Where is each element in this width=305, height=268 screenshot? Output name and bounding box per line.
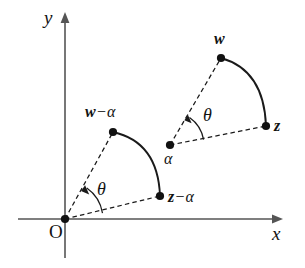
dot-w [217,54,225,62]
arc-w-to-z [221,58,266,126]
connecting-arcs-group [113,58,266,196]
label-z: z [274,118,280,134]
dot-z [262,122,270,130]
vertex-dots-group [61,54,270,223]
y-axis-label: y [44,8,52,27]
angle-arrow-origin [81,185,89,194]
label-w-minus-alpha-base: w [85,103,96,120]
angle-theta-alpha-group [184,115,203,140]
diagram-canvas [0,0,305,268]
label-z-minus-alpha: z−α [168,189,194,205]
ray-alpha-to-z [170,126,266,145]
x-axis-label: x [272,224,280,243]
angle-arrow-alpha [184,115,191,123]
label-z-minus-alpha-operator: − [174,188,185,205]
label-w-base: w [214,30,225,47]
label-z-minus-alpha-greek: α [185,188,193,205]
ray-origin-to-w-minus-alpha [65,132,113,219]
ray-alpha-to-w [170,58,221,145]
dot-w-minus-alpha [109,128,117,136]
label-z-base: z [274,117,280,134]
label-w-minus-alpha-greek: α [107,103,115,120]
arc-w-minus-alpha-to-z-minus-alpha [113,132,160,196]
angle-arc-alpha [190,117,204,139]
label-w-minus-alpha: w−α [85,104,115,120]
rotation-diagram-figure: y x O θ θ w−α z−α w z α [0,0,305,268]
label-w: w [214,31,225,47]
dot-z-minus-alpha [156,192,164,200]
theta-label-origin: θ [97,180,106,198]
dot-alpha [166,141,174,149]
y-axis-arrowhead [61,12,70,23]
label-w-minus-alpha-operator: − [96,103,107,120]
origin-label: O [49,222,63,241]
label-alpha: α [164,151,172,167]
theta-label-alpha: θ [203,106,212,124]
ray-origin-to-z-minus-alpha [65,196,160,219]
